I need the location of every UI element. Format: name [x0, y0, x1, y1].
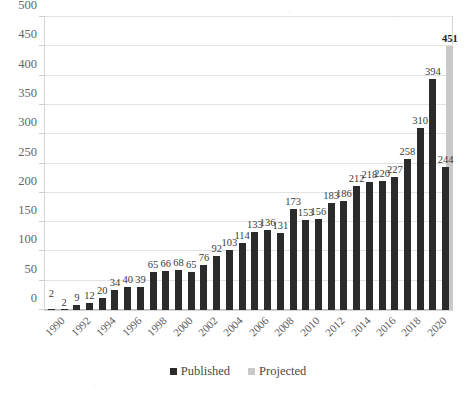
bar-published — [404, 159, 411, 310]
x-axis-tick-label: 2016 — [374, 315, 397, 338]
bar-group: 2 — [45, 17, 58, 310]
bar-group: 9 — [70, 17, 83, 310]
x-axis-tick-label: 1996 — [120, 315, 143, 338]
bar-published — [162, 271, 169, 310]
y-axis-tick-label: 0 — [31, 292, 37, 304]
bar-group: 156 — [312, 17, 325, 310]
x-axis-tick-label: 2002 — [196, 315, 219, 338]
y-axis-tick-mark — [39, 104, 44, 105]
y-axis-tick-mark — [39, 16, 44, 17]
legend-swatch-projected — [248, 368, 255, 375]
bar-value-label: 76 — [199, 253, 210, 263]
bar-value-label-projected: 451 — [442, 34, 458, 44]
y-axis-tick-mark — [39, 280, 44, 281]
x-axis-tick-label: 1998 — [146, 315, 169, 338]
bar-group: 183 — [325, 17, 338, 310]
bar-value-label: 40 — [122, 275, 133, 285]
bar-published — [429, 79, 436, 310]
bar-published — [379, 181, 386, 310]
x-axis-tick-label: 2012 — [324, 315, 347, 338]
legend-item[interactable]: Published — [170, 364, 230, 379]
bar-published — [124, 287, 131, 310]
bar-group: 103 — [223, 17, 236, 310]
x-axis-tick-label: 2004 — [222, 315, 245, 338]
bar-published — [302, 220, 309, 310]
legend-swatch-published — [170, 368, 177, 375]
legend-label: Projected — [259, 364, 306, 379]
x-axis-tick-label: 1992 — [69, 315, 92, 338]
x-axis-tick-label: 2014 — [349, 315, 372, 338]
x-axis-tick-label: 1994 — [95, 315, 118, 338]
x-axis-tick-label: 2006 — [247, 315, 270, 338]
y-axis-tick-mark — [39, 250, 44, 251]
bar-group: 65 — [185, 17, 198, 310]
bar-group: 218 — [363, 17, 376, 310]
bar-group: 39 — [134, 17, 147, 310]
bar-published — [391, 177, 398, 310]
bar-published — [175, 270, 182, 310]
y-axis-tick-mark — [39, 45, 44, 46]
bar-published — [251, 232, 258, 310]
bar-value-label: 244 — [438, 155, 454, 165]
bar-published — [73, 305, 80, 310]
x-axis-tick-label: 2010 — [298, 315, 321, 338]
bar-value-label: 39 — [135, 275, 146, 285]
bar-value-label: 12 — [84, 291, 95, 301]
y-axis-tick-mark — [39, 309, 44, 310]
bar-group: 186 — [338, 17, 351, 310]
y-axis-tick-label: 50 — [25, 263, 38, 275]
bar-published — [277, 233, 284, 310]
bar-published — [340, 201, 347, 310]
bar-published — [290, 209, 297, 310]
x-axis-tick-label: 1990 — [44, 315, 67, 338]
bar-group: 227 — [388, 17, 401, 310]
bar-published — [48, 309, 55, 310]
y-axis-tick-label: 100 — [18, 233, 37, 245]
bar-value-label: 68 — [173, 258, 184, 268]
chart-legend: PublishedProjected — [0, 364, 476, 379]
x-axis-tick-label: 2020 — [425, 315, 448, 338]
y-axis-tick-label: 250 — [18, 146, 37, 158]
y-axis-tick-label: 350 — [18, 87, 37, 99]
bar-group: 40 — [121, 17, 134, 310]
bar-group: 258 — [401, 17, 414, 310]
bar-group: 136 — [261, 17, 274, 310]
bar-group: 20 — [96, 17, 109, 310]
bar-published — [200, 265, 207, 310]
bar-value-label: 66 — [161, 259, 172, 269]
bar-group: 451244 — [439, 17, 452, 310]
bar-published — [137, 287, 144, 310]
bar-value-label: 92 — [211, 244, 222, 254]
y-axis: 050100150200250300350400450500 — [0, 16, 44, 311]
bar-chart-figure: 050100150200250300350400450500 229122034… — [0, 0, 476, 402]
y-axis-tick-label: 150 — [18, 204, 37, 216]
bar-published — [99, 298, 106, 310]
bar-group: 76 — [198, 17, 211, 310]
bar-value-label: 65 — [148, 260, 159, 270]
bar-group: 310 — [414, 17, 427, 310]
y-axis-tick-mark — [39, 75, 44, 76]
legend-label: Published — [181, 364, 230, 379]
bar-group: 34 — [109, 17, 122, 310]
y-axis-tick-mark — [39, 192, 44, 193]
y-axis-tick-label: 500 — [18, 0, 37, 11]
bar-series-group: 2291220344039656668657692103114133136131… — [45, 17, 452, 310]
bar-value-label: 2 — [61, 298, 66, 308]
x-axis-tick-label: 2000 — [171, 315, 194, 338]
bar-published — [239, 243, 246, 310]
bar-group: 114 — [236, 17, 249, 310]
y-axis-tick-mark — [39, 133, 44, 134]
bar-group: 133 — [249, 17, 262, 310]
bar-published — [264, 230, 271, 310]
legend-item[interactable]: Projected — [248, 364, 306, 379]
y-axis-tick-label: 300 — [18, 116, 37, 128]
bar-published — [111, 290, 118, 310]
bar-group: 68 — [172, 17, 185, 310]
bar-group: 12 — [83, 17, 96, 310]
bar-group: 66 — [159, 17, 172, 310]
bar-group: 173 — [287, 17, 300, 310]
bar-group: 2 — [58, 17, 71, 310]
bar-group: 92 — [210, 17, 223, 310]
bar-value-label: 20 — [97, 286, 108, 296]
bar-value-label: 9 — [74, 293, 79, 303]
